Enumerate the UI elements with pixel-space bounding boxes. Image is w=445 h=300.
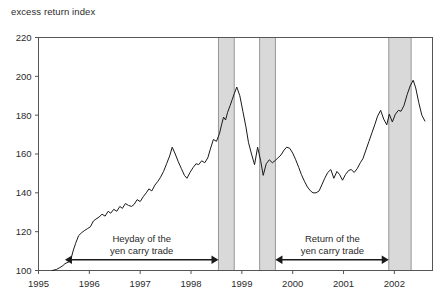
x-tick-label: 1998 xyxy=(180,278,201,289)
x-tick-label: 1997 xyxy=(130,278,151,289)
x-axis-ticks: 19951996199719981999200020012002 xyxy=(28,271,405,289)
return-annotation-line2: yen carry trade xyxy=(301,245,364,256)
y-tick-label: 200 xyxy=(16,71,32,82)
heyday-annotation-arrow-head-right xyxy=(211,256,218,264)
heyday-annotation-line2: yen carry trade xyxy=(110,245,173,256)
y-tick-label: 140 xyxy=(16,187,32,198)
data-line-1 xyxy=(52,80,425,270)
y-tick-label: 180 xyxy=(16,110,32,121)
shaded-band-1 xyxy=(218,38,234,271)
shaded-band-3 xyxy=(389,38,411,271)
x-tick-label: 1995 xyxy=(28,278,49,289)
data-series-group xyxy=(52,80,425,270)
return-annotation-line1: Return of the xyxy=(305,233,360,244)
return-annotation-arrow-head-left xyxy=(275,256,282,264)
x-tick-label: 2001 xyxy=(333,278,354,289)
x-tick-label: 1996 xyxy=(79,278,100,289)
x-tick-label: 1999 xyxy=(231,278,252,289)
y-axis-ticks: 100120140160180200220 xyxy=(16,32,39,276)
y-tick-label: 100 xyxy=(16,265,32,276)
plot-frame xyxy=(39,38,433,271)
plot-border xyxy=(39,38,433,271)
chart-figure: excess return index 10012014016018020022… xyxy=(0,0,445,300)
chart-plot-svg: 100120140160180200220 199519961997199819… xyxy=(0,0,445,300)
x-tick-label: 2002 xyxy=(384,278,405,289)
return-annotation-arrow-head-right xyxy=(382,256,389,264)
y-tick-label: 160 xyxy=(16,148,32,159)
shaded-band-2 xyxy=(260,38,276,271)
x-tick-label: 2000 xyxy=(282,278,303,289)
y-tick-label: 120 xyxy=(16,226,32,237)
y-tick-label: 220 xyxy=(16,32,32,43)
heyday-annotation-line1: Heyday of the xyxy=(112,233,171,244)
